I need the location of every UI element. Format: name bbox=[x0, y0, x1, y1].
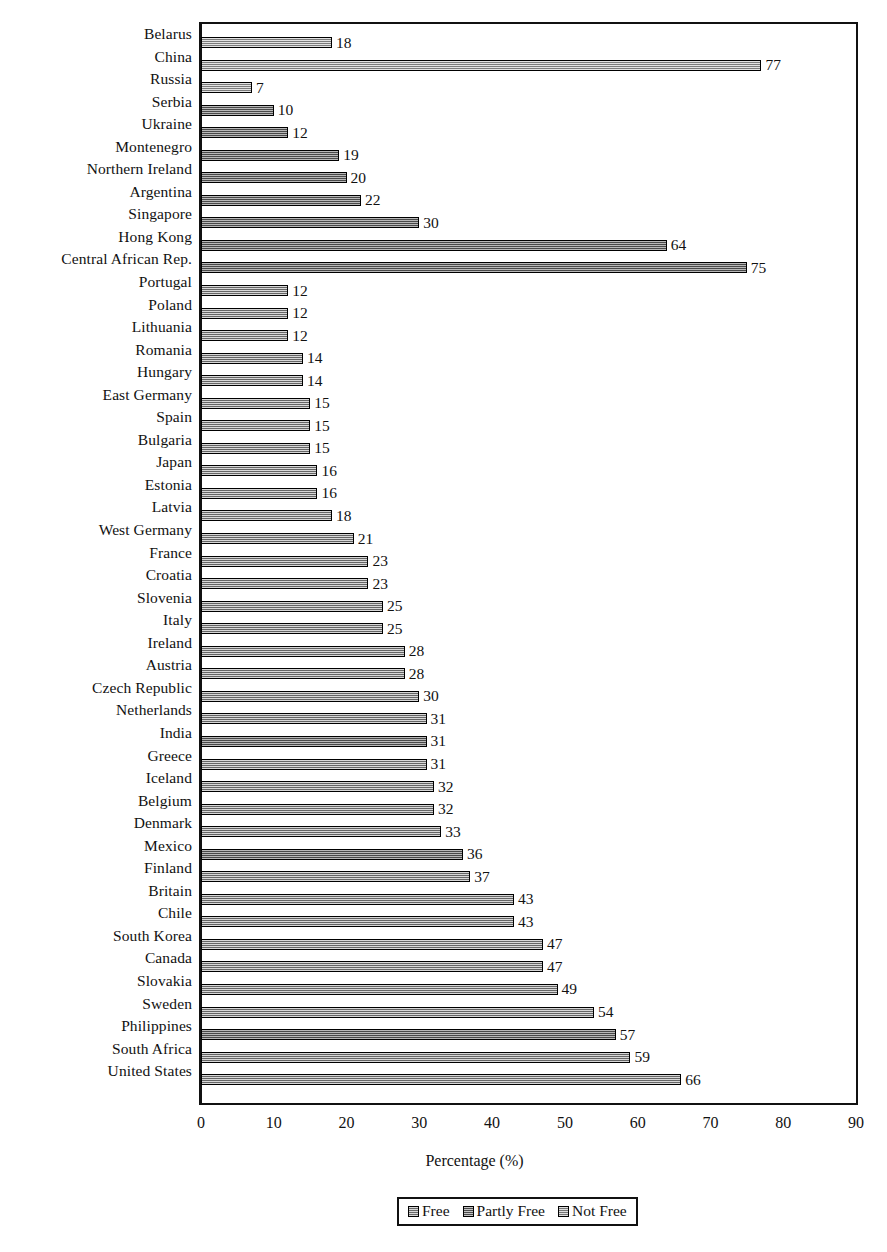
bar-container: 31 bbox=[201, 713, 427, 724]
bar: 43 bbox=[201, 894, 514, 905]
bar: 43 bbox=[201, 916, 514, 927]
bar-row: Montenegro19 bbox=[0, 139, 887, 162]
category-label: Netherlands bbox=[116, 700, 192, 720]
bar-container: 16 bbox=[201, 465, 317, 476]
bar-row: Austria28 bbox=[0, 657, 887, 680]
bar-row: Ireland28 bbox=[0, 635, 887, 658]
bar: 30 bbox=[201, 217, 419, 228]
bar: 14 bbox=[201, 353, 303, 364]
bar-row: Belarus18 bbox=[0, 26, 887, 49]
legend-swatch-icon bbox=[408, 1206, 419, 1217]
category-label: Estonia bbox=[145, 475, 192, 495]
category-label: Ukraine bbox=[141, 114, 192, 134]
bar: 14 bbox=[201, 375, 303, 386]
bar: 28 bbox=[201, 668, 405, 679]
x-axis-tick: 90 bbox=[848, 1112, 864, 1134]
category-label: South Africa bbox=[112, 1039, 192, 1059]
bar: 10 bbox=[201, 105, 274, 116]
category-label: Argentina bbox=[129, 182, 192, 202]
bar: 32 bbox=[201, 804, 434, 815]
bar-container: 57 bbox=[201, 1029, 616, 1040]
category-label: Montenegro bbox=[115, 137, 192, 157]
bar: 36 bbox=[201, 849, 463, 860]
category-label: Belgium bbox=[138, 791, 192, 811]
x-axis-tick: 60 bbox=[630, 1112, 646, 1134]
bar-row: Northern Ireland20 bbox=[0, 161, 887, 184]
bar-row: Greece31 bbox=[0, 748, 887, 771]
category-label: Poland bbox=[148, 295, 192, 315]
bar-row: Belgium32 bbox=[0, 793, 887, 816]
x-axis-tick: 30 bbox=[411, 1112, 427, 1134]
bar-container: 14 bbox=[201, 375, 303, 386]
category-label: Hong Kong bbox=[118, 227, 192, 247]
category-label: Slovenia bbox=[137, 588, 192, 608]
x-axis-title: Percentage (%) bbox=[0, 1152, 887, 1170]
legend-item-free: Free bbox=[408, 1202, 450, 1220]
bar-container: 12 bbox=[201, 308, 288, 319]
bar-container: 15 bbox=[201, 443, 310, 454]
bar: 15 bbox=[201, 443, 310, 454]
category-label: United States bbox=[108, 1061, 192, 1081]
bar-row: Iceland32 bbox=[0, 770, 887, 793]
x-axis-tick: 80 bbox=[775, 1112, 791, 1134]
bar-container: 7 bbox=[201, 82, 252, 93]
bar-row: Slovakia49 bbox=[0, 973, 887, 996]
bar-container: 14 bbox=[201, 353, 303, 364]
bar-row: United States66 bbox=[0, 1063, 887, 1086]
bar-row: Hong Kong64 bbox=[0, 229, 887, 252]
bar-container: 32 bbox=[201, 781, 434, 792]
bar: 15 bbox=[201, 420, 310, 431]
bar-container: 28 bbox=[201, 646, 405, 657]
bar: 32 bbox=[201, 781, 434, 792]
bar-container: 31 bbox=[201, 736, 427, 747]
bar-row: Central African Rep.75 bbox=[0, 251, 887, 274]
bar-row: Britain43 bbox=[0, 883, 887, 906]
legend-label: Free bbox=[422, 1202, 450, 1220]
bar-row: Netherlands31 bbox=[0, 702, 887, 725]
category-label: Philippines bbox=[121, 1016, 192, 1036]
category-label: India bbox=[160, 723, 192, 743]
legend-label: Not Free bbox=[572, 1202, 627, 1220]
bar-row: Poland12 bbox=[0, 297, 887, 320]
bar: 54 bbox=[201, 1007, 594, 1018]
bar-row: Romania14 bbox=[0, 342, 887, 365]
bar-row: Slovenia25 bbox=[0, 590, 887, 613]
category-label: Hungary bbox=[137, 362, 192, 382]
bar-row: Denmark33 bbox=[0, 815, 887, 838]
bar: 31 bbox=[201, 759, 427, 770]
bar: 23 bbox=[201, 578, 368, 589]
bar-row: Lithuania12 bbox=[0, 319, 887, 342]
bar-container: 25 bbox=[201, 623, 383, 634]
bar-row: South Korea47 bbox=[0, 928, 887, 951]
x-axis-tick: 50 bbox=[557, 1112, 573, 1134]
bar-row: Chile43 bbox=[0, 905, 887, 928]
category-label: Croatia bbox=[146, 565, 192, 585]
category-label: Greece bbox=[148, 746, 192, 766]
bar-container: 23 bbox=[201, 556, 368, 567]
category-label: Singapore bbox=[128, 204, 192, 224]
bar-row: Hungary14 bbox=[0, 364, 887, 387]
bar: 23 bbox=[201, 556, 368, 567]
bar-row: East Germany15 bbox=[0, 387, 887, 410]
bar-container: 77 bbox=[201, 60, 761, 71]
bar: 31 bbox=[201, 713, 427, 724]
category-label: Ireland bbox=[147, 633, 192, 653]
category-label: Austria bbox=[146, 655, 192, 675]
bar-container: 18 bbox=[201, 37, 332, 48]
bar: 66 bbox=[201, 1074, 681, 1085]
category-label: East Germany bbox=[103, 385, 192, 405]
bar-container: 12 bbox=[201, 127, 288, 138]
bar: 77 bbox=[201, 60, 761, 71]
category-label: Latvia bbox=[152, 497, 192, 517]
bar: 59 bbox=[201, 1052, 630, 1063]
legend-label: Partly Free bbox=[477, 1202, 545, 1220]
bar-rows: Belarus18China77Russia7Serbia10Ukraine12… bbox=[0, 26, 887, 1086]
bar: 19 bbox=[201, 150, 339, 161]
bar-row: Argentina22 bbox=[0, 184, 887, 207]
bar-row: Estonia16 bbox=[0, 477, 887, 500]
bar-container: 21 bbox=[201, 533, 354, 544]
legend-swatch-icon bbox=[463, 1206, 474, 1217]
bar-container: 12 bbox=[201, 285, 288, 296]
bar: 12 bbox=[201, 285, 288, 296]
bar-row: Czech Republic30 bbox=[0, 680, 887, 703]
